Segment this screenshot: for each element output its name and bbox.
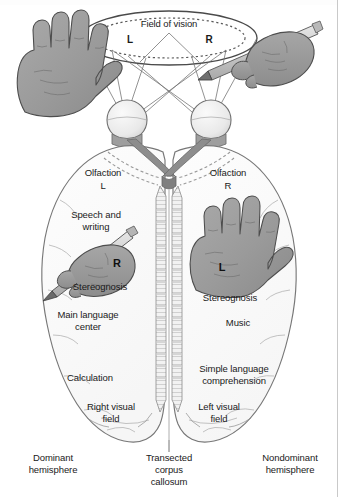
transected-corpus-callosum (156, 186, 182, 452)
split-brain-figure: Field of vision L R Olfaction L Speech a… (0, 0, 338, 497)
figure-illustration (0, 0, 338, 497)
open-left-hand-illustration (17, 10, 122, 117)
